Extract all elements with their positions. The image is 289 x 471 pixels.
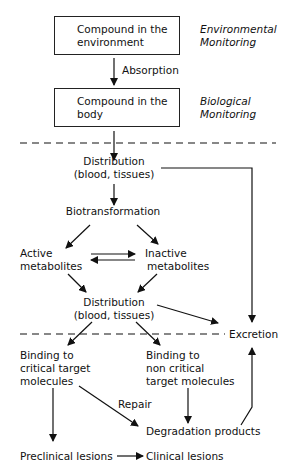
binding-noncritical-line1: Binding to (146, 349, 200, 362)
distribution2-line1: Distribution (83, 296, 144, 309)
body-compound-line1: Compound in the (77, 95, 168, 108)
binding-noncritical-line3: target molecules (146, 375, 235, 388)
env-monitoring-line2: Monitoring (200, 36, 256, 49)
env-monitoring-line1: Environmental (200, 23, 277, 36)
body-compound-line2: body (77, 108, 103, 121)
absorption-label: Absorption (122, 64, 179, 77)
preclinical-label: Preclinical lesions (20, 450, 113, 463)
bio-monitoring-line1: Biological (200, 95, 251, 108)
clinical-label: Clinical lesions (146, 450, 224, 463)
binding-critical-line3: molecules (20, 375, 73, 388)
bio-monitoring-line2: Monitoring (200, 108, 256, 121)
distribution2-line2: (blood, tissues) (74, 309, 155, 322)
binding-critical-line2: critical target (20, 362, 90, 375)
distribution1-line1: Distribution (83, 155, 144, 168)
inactive-line2: metabolites (147, 260, 209, 273)
biotransformation-label: Biotransformation (66, 205, 161, 218)
binding-noncritical-line2: non critical (146, 362, 204, 375)
env-compound-line2: environment (77, 36, 144, 49)
toxicokinetics-flow-diagram: Compound in the environment Environmenta… (0, 0, 289, 471)
repair-label: Repair (118, 398, 152, 411)
active-line1: Active (20, 247, 52, 260)
degradation-label: Degradation products (146, 425, 260, 438)
env-compound-line1: Compound in the (77, 23, 168, 36)
binding-critical-line1: Binding to (20, 349, 74, 362)
inactive-line1: Inactive (145, 247, 187, 260)
active-line2: metabolites (20, 260, 82, 273)
excretion-label: Excretion (229, 328, 278, 341)
distribution1-line2: (blood, tissues) (74, 168, 155, 181)
